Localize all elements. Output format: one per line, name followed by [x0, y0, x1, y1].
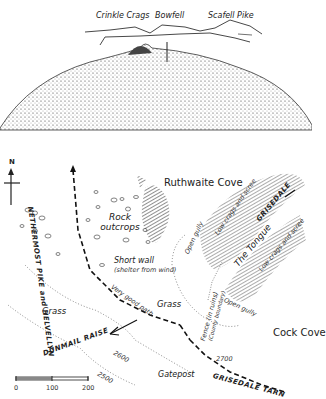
area-ruthwaite-cove: Ruthwaite Cove — [164, 177, 234, 188]
area-cock-cove: Cock Cove — [273, 327, 309, 338]
peak-label-bowfell: Bowfell — [155, 11, 184, 20]
peak-label-crinkle-crags: Crinkle Crags — [96, 11, 150, 20]
scale-tick-0: 0 — [14, 384, 18, 392]
label-grass-1: Grass — [42, 306, 66, 316]
label-grass-2: Grass — [157, 299, 181, 309]
peak-label-scafell-pike: Scafell Pike — [208, 11, 254, 20]
north-arrow-icon — [4, 168, 20, 205]
label-shelter: (shelter from wind) — [114, 266, 176, 274]
label-short-wall: Short wall — [114, 256, 154, 265]
north-label: N — [9, 158, 15, 166]
scale-bar — [16, 376, 88, 381]
distant-ridges — [85, 20, 262, 45]
scale-tick-100: 100 — [46, 384, 58, 392]
label-rock-outcrops: Rock outcrops — [100, 212, 140, 232]
scale-tick-200: 200 — [82, 384, 94, 392]
hill-summit-drawing — [0, 42, 312, 130]
contour-2700: 2700 — [216, 355, 233, 363]
label-gatepost: Gatepost — [158, 370, 194, 379]
